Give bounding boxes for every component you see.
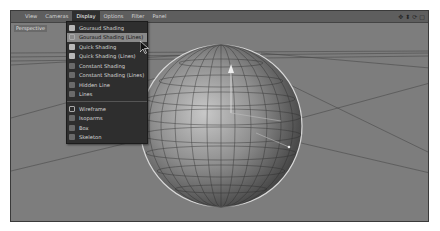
quick-lines-icon: [69, 53, 75, 59]
lines-icon: [69, 91, 75, 97]
menu-view[interactable]: View: [21, 11, 41, 22]
box-icon: [69, 125, 75, 131]
zoom-icon[interactable]: ⬍: [405, 12, 410, 21]
menu-item-quick-shading[interactable]: Quick Shading: [67, 42, 147, 52]
maximize-icon[interactable]: ▢: [419, 12, 425, 21]
rotate-icon[interactable]: ⟳: [412, 12, 417, 21]
gouraud-shading-icon: [69, 25, 75, 31]
menu-item-gouraud-shading[interactable]: Gouraud Shading: [67, 23, 147, 33]
constant-shading-icon: [69, 63, 75, 69]
menu-item-hidden-line[interactable]: Hidden Line: [67, 80, 147, 90]
menu-separator: [67, 101, 147, 102]
menu-item-skeleton[interactable]: Skeleton: [67, 133, 147, 143]
hidden-line-icon: [69, 82, 75, 88]
display-dropdown-menu: Gouraud Shading Gouraud Shading (Lines) …: [66, 21, 148, 144]
menu-item-constant-shading-lines[interactable]: Constant Shading (Lines): [67, 71, 147, 81]
navigation-icons: ✥ ⬍ ⟳ ▢: [398, 12, 425, 21]
menu-item-gouraud-shading-lines[interactable]: Gouraud Shading (Lines): [67, 33, 147, 43]
menu-item-isoparms[interactable]: Isoparms: [67, 114, 147, 124]
camera-label: Perspective: [14, 25, 47, 32]
isoparms-icon: [69, 115, 75, 121]
constant-lines-icon: [69, 72, 75, 78]
menu-item-lines[interactable]: Lines: [67, 90, 147, 100]
mouse-cursor-icon: [140, 41, 149, 54]
menu-item-quick-shading-lines[interactable]: Quick Shading (Lines): [67, 52, 147, 62]
gouraud-lines-icon: [69, 34, 75, 40]
sphere-object: [140, 45, 302, 207]
menu-item-constant-shading[interactable]: Constant Shading: [67, 61, 147, 71]
menu-panel[interactable]: Panel: [148, 11, 170, 22]
skeleton-icon: [69, 134, 75, 140]
move-icon[interactable]: ✥: [398, 12, 403, 21]
menu-item-wireframe[interactable]: Wireframe: [67, 104, 147, 114]
menu-item-box[interactable]: Box: [67, 123, 147, 133]
quick-shading-icon: [69, 44, 75, 50]
wireframe-icon: [69, 106, 75, 112]
